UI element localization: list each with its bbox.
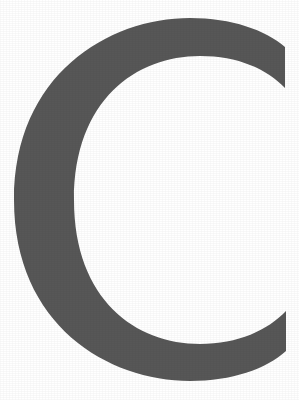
letter-c-icon: Uppercase letter C rendered in dark gray… xyxy=(0,0,299,400)
image-canvas: Uppercase letter C rendered in dark gray… xyxy=(0,0,299,400)
letter-glyph-layer: Uppercase letter C rendered in dark gray… xyxy=(0,0,299,400)
